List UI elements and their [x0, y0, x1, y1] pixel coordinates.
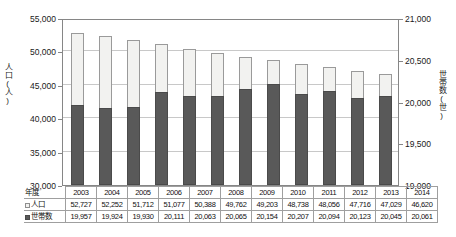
y-axis-right-tick-label: 20,500	[405, 56, 445, 66]
y-axis-right-tick-mark	[399, 19, 403, 20]
bar-households	[99, 108, 112, 185]
table-rowhead-year: 年度	[24, 187, 66, 199]
bar-group	[351, 20, 364, 185]
table-cell-value: 20,094	[314, 211, 345, 223]
table-cell-year: 2004	[97, 187, 128, 199]
table-rowhead-population: 人口	[24, 199, 66, 211]
table-cell-value: 47,716	[345, 199, 376, 211]
table-cell-year: 2010	[283, 187, 314, 199]
plot-area	[62, 19, 399, 186]
table-cell-value: 46,620	[407, 199, 438, 211]
table-cell-value: 20,061	[407, 211, 438, 223]
data-table: 年度20032004200520062007200820092010201120…	[24, 186, 438, 223]
bar-group	[323, 20, 336, 185]
bar-households	[379, 96, 392, 185]
bar-households	[155, 92, 168, 185]
legend-swatch-icon	[25, 215, 30, 220]
table-cell-value: 20,045	[376, 211, 407, 223]
y-axis-left-tick-label: 45,000	[20, 81, 56, 91]
table-cell-year: 2008	[221, 187, 252, 199]
chart-figure: 人口(人) 世帯数(世) 30,00035,00040,00045,00050,…	[0, 0, 456, 237]
table-row-households: 世帯数19,95719,92419,93020,11120,06320,0652…	[24, 211, 438, 223]
y-axis-right-tick-label: 20,000	[405, 98, 445, 108]
bar-households	[211, 96, 224, 185]
bar-households	[183, 96, 196, 185]
bar-group	[239, 20, 252, 185]
table-cell-value: 20,065	[221, 211, 252, 223]
table-cell-year: 2014	[407, 187, 438, 199]
y-axis-right-tick-label: 19,500	[405, 139, 445, 149]
table-cell-value: 20,154	[252, 211, 283, 223]
table-cell-year: 2007	[190, 187, 221, 199]
bar-households	[239, 89, 252, 185]
y-axis-right-tick-label: 21,000	[405, 14, 445, 24]
y-axis-left-tick-label: 35,000	[20, 148, 56, 158]
y-axis-left-tick-label: 50,000	[20, 47, 56, 57]
table-rowhead-label: 人口	[31, 199, 45, 210]
table-cell-year: 2006	[159, 187, 190, 199]
table-cell-value: 51,077	[159, 199, 190, 211]
table-rowhead-label: 世帯数	[31, 211, 51, 222]
bar-group	[183, 20, 196, 185]
bar-group	[71, 20, 84, 185]
bar-group	[155, 20, 168, 185]
table-cell-value: 48,056	[314, 199, 345, 211]
table-cell-value: 19,930	[128, 211, 159, 223]
table-row-population: 人口52,72752,25251,71251,07750,38849,76249…	[24, 199, 438, 211]
table-cell-value: 50,388	[190, 199, 221, 211]
bar-households	[127, 107, 140, 185]
y-axis-right-title: 世帯数(世)	[436, 70, 447, 180]
table-cell-value: 19,924	[97, 211, 128, 223]
bar-group	[127, 20, 140, 185]
bar-households	[323, 91, 336, 185]
table-rowhead-households: 世帯数	[24, 211, 66, 223]
bar-households	[295, 94, 308, 185]
bar-group	[99, 20, 112, 185]
table-cell-value: 19,957	[66, 211, 97, 223]
table-cell-year: 2011	[314, 187, 345, 199]
table-cell-year: 2012	[345, 187, 376, 199]
table-rowhead-year-label: 年度	[25, 187, 39, 198]
y-axis-right-tick-mark	[399, 61, 403, 62]
table-cell-value: 52,252	[97, 199, 128, 211]
table-cell-year: 2009	[252, 187, 283, 199]
bar-households	[267, 84, 280, 185]
y-axis-left-title: 人口(人)	[2, 63, 13, 173]
table-cell-value: 51,712	[128, 199, 159, 211]
legend-swatch-icon	[25, 203, 30, 208]
table-cell-year: 2003	[66, 187, 97, 199]
bar-group	[267, 20, 280, 185]
table-cell-value: 20,207	[283, 211, 314, 223]
bar-households	[351, 98, 364, 185]
y-axis-right-tick-mark	[399, 103, 403, 104]
table-cell-value: 49,203	[252, 199, 283, 211]
table-cell-value: 47,029	[376, 199, 407, 211]
y-axis-right-tick-mark	[399, 144, 403, 145]
bar-households	[71, 105, 84, 185]
table-cell-value: 20,123	[345, 211, 376, 223]
table-cell-value: 49,762	[221, 199, 252, 211]
table-row-year: 年度20032004200520062007200820092010201120…	[24, 187, 438, 199]
y-axis-left-tick-label: 40,000	[20, 114, 56, 124]
table-cell-value: 20,111	[159, 211, 190, 223]
bar-group	[295, 20, 308, 185]
table-cell-year: 2013	[376, 187, 407, 199]
bar-series-group	[63, 20, 398, 185]
y-axis-left-tick-label: 55,000	[20, 14, 56, 24]
table-cell-year: 2005	[128, 187, 159, 199]
table-cell-value: 20,063	[190, 211, 221, 223]
table-cell-value: 52,727	[66, 199, 97, 211]
table-cell-value: 48,738	[283, 199, 314, 211]
bar-group	[211, 20, 224, 185]
bar-group	[379, 20, 392, 185]
